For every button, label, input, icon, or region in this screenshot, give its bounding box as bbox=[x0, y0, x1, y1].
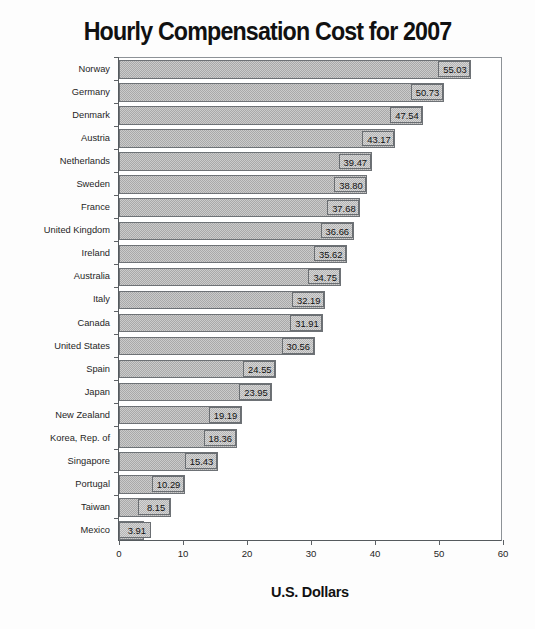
chart-row: Singapore15.43 bbox=[119, 450, 501, 473]
chart-row: France37.68 bbox=[119, 196, 501, 219]
category-label-japan: Japan bbox=[85, 381, 119, 404]
bar-value-label: 47.54 bbox=[390, 107, 422, 123]
chart-row: Ireland35.62 bbox=[119, 242, 501, 265]
category-label-spain: Spain bbox=[86, 358, 119, 381]
x-axis-tick bbox=[247, 540, 248, 545]
bar-value-label: 8.15 bbox=[138, 499, 170, 515]
category-label-singapore: Singapore bbox=[68, 450, 119, 473]
x-axis-tick bbox=[119, 540, 120, 545]
category-label-united-states: United States bbox=[54, 335, 119, 358]
category-label-united-kingdom: United Kingdom bbox=[44, 219, 119, 242]
bar-value-label: 3.91 bbox=[119, 522, 151, 538]
category-label-austria: Austria bbox=[81, 127, 119, 150]
bar-value-label: 50.73 bbox=[411, 84, 443, 100]
bar bbox=[119, 83, 444, 102]
x-axis-tick-label: 20 bbox=[242, 548, 253, 559]
chart-row: Taiwan8.15 bbox=[119, 496, 501, 519]
bar bbox=[119, 152, 372, 171]
bar-value-label: 23.95 bbox=[239, 384, 271, 400]
bar bbox=[119, 175, 367, 194]
bar-value-label: 38.80 bbox=[334, 177, 366, 193]
x-axis-tick-label: 10 bbox=[178, 548, 189, 559]
plot-area: Norway55.03Germany50.73Denmark47.54Austr… bbox=[118, 57, 502, 541]
bar bbox=[119, 106, 423, 125]
chart-row: United States30.56 bbox=[119, 335, 501, 358]
x-axis-tick-label: 0 bbox=[116, 548, 121, 559]
chart-row: Portugal10.29 bbox=[119, 473, 501, 496]
chart-row: Germany50.73 bbox=[119, 81, 501, 104]
category-label-germany: Germany bbox=[72, 81, 119, 104]
bar-value-label: 39.47 bbox=[339, 154, 371, 170]
category-label-mexico: Mexico bbox=[81, 519, 119, 542]
chart-row: Austria43.17 bbox=[119, 127, 501, 150]
chart-figure: Hourly Compensation Cost for 2007 Norway… bbox=[0, 0, 535, 629]
chart-row: Sweden38.80 bbox=[119, 173, 501, 196]
chart-title: Hourly Compensation Cost for 2007 bbox=[19, 17, 517, 46]
category-label-canada: Canada bbox=[77, 312, 119, 335]
category-label-taiwan: Taiwan bbox=[81, 496, 119, 519]
category-label-denmark: Denmark bbox=[72, 104, 119, 127]
chart-row: Canada31.91 bbox=[119, 312, 501, 335]
category-label-sweden: Sweden bbox=[76, 173, 119, 196]
chart-row: Japan23.95 bbox=[119, 381, 501, 404]
x-axis-tick bbox=[375, 540, 376, 545]
x-axis-tick-label: 50 bbox=[434, 548, 445, 559]
bar-value-label: 30.56 bbox=[282, 338, 314, 354]
chart-row: Denmark47.54 bbox=[119, 104, 501, 127]
category-label-france: France bbox=[81, 196, 119, 219]
chart-row: Mexico3.91 bbox=[119, 519, 501, 542]
bar bbox=[119, 222, 354, 241]
bar-value-label: 24.55 bbox=[243, 361, 275, 377]
bar-value-label: 15.43 bbox=[185, 453, 217, 469]
bar-value-label: 10.29 bbox=[152, 476, 184, 492]
x-axis-tick bbox=[503, 540, 504, 545]
chart-row: Italy32.19 bbox=[119, 288, 501, 311]
category-label-norway: Norway bbox=[78, 58, 119, 81]
category-label-australia: Australia bbox=[74, 265, 119, 288]
bar-value-label: 19.19 bbox=[209, 407, 241, 423]
bar-value-label: 31.91 bbox=[290, 315, 322, 331]
chart-row: Norway55.03 bbox=[119, 58, 501, 81]
bar-value-label: 18.36 bbox=[204, 430, 236, 446]
bar bbox=[119, 245, 347, 264]
x-axis-tick bbox=[311, 540, 312, 545]
x-axis-tick-label: 60 bbox=[498, 548, 509, 559]
chart-row: United Kingdom36.66 bbox=[119, 219, 501, 242]
chart-row: New Zealand19.19 bbox=[119, 404, 501, 427]
x-axis-tick bbox=[183, 540, 184, 545]
category-label-korea-rep-of: Korea, Rep. of bbox=[50, 427, 119, 450]
x-axis-tick-label: 30 bbox=[306, 548, 317, 559]
bar-value-label: 55.03 bbox=[438, 61, 470, 77]
bar bbox=[119, 60, 471, 79]
x-axis-tick bbox=[439, 540, 440, 545]
chart-row: Korea, Rep. of18.36 bbox=[119, 427, 501, 450]
chart-row: Spain24.55 bbox=[119, 358, 501, 381]
category-label-portugal: Portugal bbox=[75, 473, 119, 496]
category-label-italy: Italy bbox=[93, 288, 119, 311]
bar-value-label: 36.66 bbox=[321, 223, 353, 239]
bar-value-label: 43.17 bbox=[362, 131, 394, 147]
bar-value-label: 35.62 bbox=[314, 246, 346, 262]
bar bbox=[119, 198, 360, 217]
category-label-new-zealand: New Zealand bbox=[55, 404, 119, 427]
bar bbox=[119, 129, 395, 148]
category-label-ireland: Ireland bbox=[82, 242, 119, 265]
bar-value-label: 34.75 bbox=[308, 269, 340, 285]
chart-row: Australia34.75 bbox=[119, 265, 501, 288]
bar-value-label: 37.68 bbox=[327, 200, 359, 216]
bar-value-label: 32.19 bbox=[292, 292, 324, 308]
x-axis-title: U.S. Dollars bbox=[118, 584, 502, 600]
x-axis-tick-label: 40 bbox=[370, 548, 381, 559]
chart-row: Netherlands39.47 bbox=[119, 150, 501, 173]
category-label-netherlands: Netherlands bbox=[60, 150, 119, 173]
